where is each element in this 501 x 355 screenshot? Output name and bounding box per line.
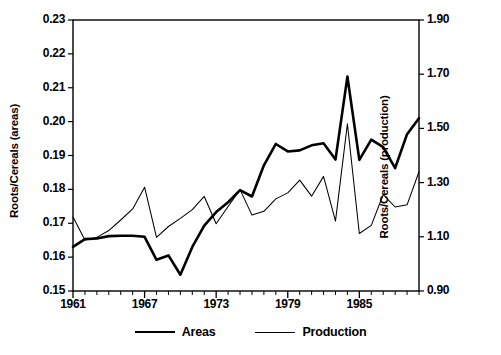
y-axis-right-tick: 0.90 (427, 283, 469, 297)
legend-item-areas: Areas (135, 325, 216, 339)
x-axis-tick: 1961 (51, 297, 95, 311)
y-axis-right-tick: 1.10 (427, 229, 469, 243)
x-axis-tick: 1967 (123, 297, 167, 311)
y-axis-left-tick: 0.20 (25, 114, 65, 128)
y-axis-right-label: Roots/Cereals (production) (378, 62, 390, 272)
chart-legend: Areas Production (0, 325, 501, 339)
y-axis-left-tick: 0.19 (25, 148, 65, 162)
y-axis-left-tick: 0.21 (25, 80, 65, 94)
y-axis-left-tick: 0.15 (25, 283, 65, 297)
y-axis-right-tick: 1.50 (427, 120, 469, 134)
legend-label-production: Production (302, 325, 366, 339)
y-axis-right-tick: 1.30 (427, 175, 469, 189)
legend-item-production: Production (255, 325, 366, 339)
y-axis-left-label: Roots/Cereals (areas) (8, 76, 20, 246)
y-axis-left-tick: 0.22 (25, 46, 65, 60)
y-axis-left-tick: 0.23 (25, 12, 65, 26)
plot-frame (73, 20, 419, 291)
axis-ticks (68, 20, 424, 298)
y-axis-left-tick: 0.17 (25, 215, 65, 229)
legend-line-production-icon (255, 332, 295, 333)
chart-figure: Roots/Cereals (areas) Roots/Cereals (pro… (0, 0, 501, 355)
x-axis-tick: 1973 (194, 297, 238, 311)
y-axis-left-tick: 0.18 (25, 181, 65, 195)
y-axis-right-tick: 1.70 (427, 66, 469, 80)
data-lines (73, 77, 419, 275)
y-axis-right-tick: 1.90 (427, 12, 469, 26)
x-axis-tick: 1979 (266, 297, 310, 311)
y-axis-left-tick: 0.16 (25, 249, 65, 263)
x-axis-tick: 1985 (337, 297, 381, 311)
legend-label-areas: Areas (182, 325, 216, 339)
legend-line-areas-icon (135, 331, 175, 333)
